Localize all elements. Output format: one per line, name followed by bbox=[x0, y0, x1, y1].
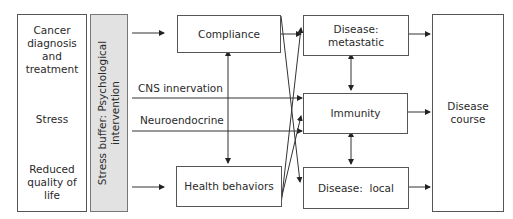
compliance-box: Compliance bbox=[177, 15, 281, 53]
disease-local-label: Disease: local bbox=[318, 182, 394, 195]
line: quality of bbox=[18, 176, 86, 189]
line: metastatic bbox=[328, 36, 384, 49]
neuroendocrine-label: Neuroendocrine bbox=[140, 114, 224, 126]
immunity-label: Immunity bbox=[330, 107, 380, 120]
disease-metastatic-box: Disease: metastatic bbox=[303, 15, 409, 56]
immunity-box: Immunity bbox=[303, 93, 408, 134]
stress-buffer-label: Stress buffer: Psychological interventio… bbox=[96, 41, 122, 185]
health-behaviors-label: Health behaviors bbox=[184, 180, 273, 193]
cns-innervation-label: CNS innervation bbox=[138, 82, 223, 94]
line: Cancer bbox=[18, 24, 86, 37]
line: intervention bbox=[109, 41, 122, 185]
cancer-stress-qol-box: Cancer diagnosis and treatment Stress Re… bbox=[17, 14, 87, 212]
stress-buffer-box: Stress buffer: Psychological interventio… bbox=[90, 14, 128, 212]
disease-course-box: Disease course bbox=[432, 14, 504, 212]
line: course bbox=[450, 113, 485, 126]
line: Reduced bbox=[18, 163, 86, 176]
line: life bbox=[18, 189, 86, 202]
stress-label: Stress bbox=[18, 113, 86, 126]
compliance-label: Compliance bbox=[198, 28, 260, 41]
disease-local-box: Disease: local bbox=[303, 167, 409, 209]
health-behaviors-box: Health behaviors bbox=[176, 166, 282, 207]
reduced-qol-label: Reduced quality of life bbox=[18, 163, 86, 202]
cancer-diagnosis-label: Cancer diagnosis and treatment bbox=[18, 24, 86, 76]
line: diagnosis and bbox=[18, 37, 86, 63]
line: Disease bbox=[447, 100, 488, 113]
line: treatment bbox=[18, 63, 86, 76]
line: Disease: bbox=[334, 23, 379, 36]
line: Stress buffer: Psychological bbox=[96, 41, 109, 185]
